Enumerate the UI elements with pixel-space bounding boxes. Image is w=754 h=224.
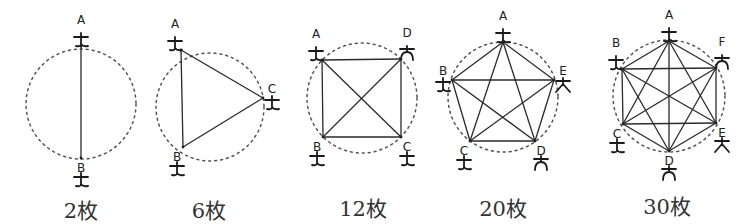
person-c-icon: C bbox=[457, 144, 471, 169]
person-label-d: D bbox=[402, 26, 411, 40]
person-b-icon: B bbox=[74, 161, 88, 186]
person-label-a: A bbox=[665, 8, 674, 22]
edges bbox=[322, 59, 401, 137]
panel-30枚: ABFCED30枚 bbox=[609, 8, 729, 219]
vertex-dot bbox=[322, 136, 325, 139]
person-d-icon: D bbox=[534, 144, 548, 170]
panel-caption: 30枚 bbox=[643, 195, 691, 219]
panel-6枚: ABC6枚 bbox=[156, 17, 279, 223]
edge-A-C bbox=[181, 50, 263, 98]
edges bbox=[622, 41, 716, 151]
person-b-icon: B bbox=[436, 64, 450, 91]
panel-caption: 12枚 bbox=[339, 197, 387, 221]
person-a-icon: A bbox=[496, 9, 510, 42]
person-label-a: A bbox=[171, 17, 180, 31]
edge-B-C bbox=[622, 69, 623, 124]
person-a-icon: A bbox=[168, 17, 182, 50]
edge-E-D bbox=[669, 123, 716, 151]
panel-caption: 20枚 bbox=[479, 197, 527, 221]
edge-A-B bbox=[181, 50, 183, 147]
person-label-f: F bbox=[719, 35, 726, 49]
vertex-dot bbox=[180, 49, 183, 52]
panel-2枚: AB2枚 bbox=[26, 13, 136, 223]
edge-B-F bbox=[622, 68, 716, 69]
person-label-c: C bbox=[268, 82, 276, 96]
panel-caption: 2枚 bbox=[64, 199, 98, 223]
vertex-dot bbox=[621, 68, 624, 71]
vertex-dot bbox=[668, 40, 671, 43]
edge-A-D bbox=[503, 42, 535, 141]
person-label-e: E bbox=[559, 64, 567, 78]
vertex-dot bbox=[182, 146, 185, 149]
edge-A-B bbox=[322, 60, 323, 137]
person-label-b: B bbox=[439, 64, 447, 78]
vertex-dot bbox=[321, 59, 324, 62]
person-b-icon: B bbox=[310, 140, 324, 165]
edge-A-B bbox=[452, 42, 503, 80]
person-c-icon: C bbox=[400, 140, 414, 165]
person-a-icon: A bbox=[309, 27, 323, 60]
vertex-dot bbox=[469, 140, 472, 143]
vertex-dot bbox=[451, 79, 454, 82]
person-b-icon: B bbox=[609, 36, 623, 69]
person-f-icon: F bbox=[715, 35, 729, 69]
vertex-dot bbox=[80, 157, 83, 160]
edge-A-D bbox=[322, 59, 401, 60]
person-d-icon: D bbox=[400, 26, 414, 60]
person-label-a: A bbox=[77, 13, 86, 27]
dotted-circle bbox=[448, 42, 558, 152]
vertex-dot bbox=[400, 136, 403, 139]
person-label-a: A bbox=[312, 27, 321, 41]
edge-E-C bbox=[470, 80, 554, 141]
person-e-icon: E bbox=[715, 126, 729, 152]
panel-12枚: ADBC12枚 bbox=[307, 26, 417, 221]
edges bbox=[181, 50, 263, 147]
panel-caption: 6枚 bbox=[192, 199, 226, 223]
person-label-b: B bbox=[612, 36, 620, 50]
person-e-icon: E bbox=[556, 64, 570, 92]
vertex-dot bbox=[622, 123, 625, 126]
edge-B-D bbox=[452, 80, 535, 141]
complete-graph-diagrams: AB2枚ABC6枚ADBC12枚ABECD20枚ABFCED30枚 bbox=[0, 0, 754, 224]
person-a-icon: A bbox=[74, 13, 88, 46]
vertex-dot bbox=[80, 45, 83, 48]
edge-E-D bbox=[535, 80, 554, 141]
person-label-a: A bbox=[499, 9, 508, 23]
vertex-dot bbox=[502, 41, 505, 44]
edge-A-C bbox=[470, 42, 503, 141]
person-a-icon: A bbox=[662, 8, 676, 41]
vertex-dot bbox=[715, 122, 718, 125]
person-c-icon: C bbox=[610, 127, 624, 152]
edge-C-D bbox=[623, 124, 669, 151]
edge-A-E bbox=[503, 42, 554, 80]
vertex-dot bbox=[668, 150, 671, 153]
panel-20枚: ABECD20枚 bbox=[436, 9, 570, 221]
person-c-icon: C bbox=[265, 82, 279, 109]
vertex-dot bbox=[400, 58, 403, 61]
vertex-dot bbox=[262, 97, 265, 100]
edge-B-C bbox=[183, 98, 263, 147]
edge-C-E bbox=[623, 123, 716, 124]
vertex-dot bbox=[715, 67, 718, 70]
edges bbox=[452, 42, 554, 141]
vertex-dot bbox=[553, 79, 556, 82]
vertex-dot bbox=[534, 140, 537, 143]
person-d-icon: D bbox=[662, 154, 676, 180]
